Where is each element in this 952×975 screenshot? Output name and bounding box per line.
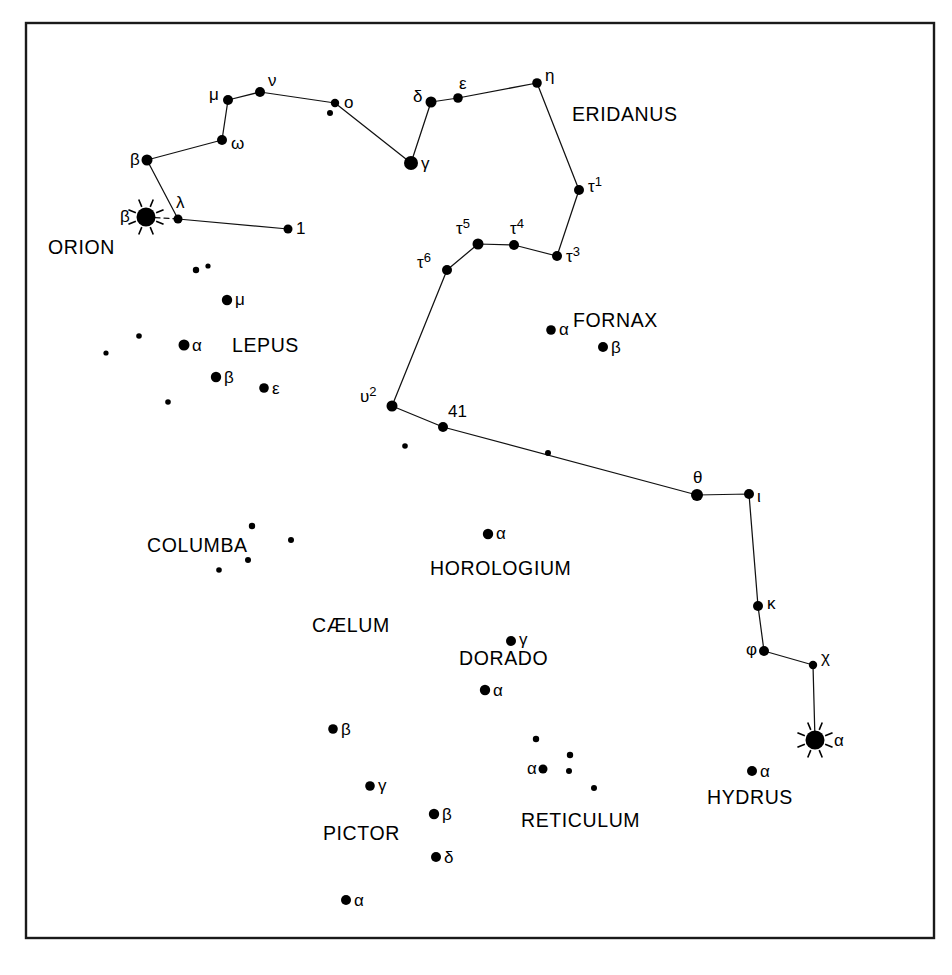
- constellation-name-horologium: HOROLOGIUM: [430, 557, 571, 579]
- star-fornax-β: [598, 342, 608, 352]
- star-fornax-α: [546, 325, 556, 335]
- star-lepus-unlabeled-31: [136, 333, 142, 339]
- star-label-υ2: υ2: [360, 384, 377, 406]
- star-chart-figure: βωμνoγδεητ1τ3τ4τ5τ6υ241θικφχα1λβμαβεαβαγ…: [0, 0, 952, 975]
- star-eridanus-ω: [217, 135, 227, 145]
- star-label-μ: μ: [209, 85, 219, 104]
- constellation-name-orion: ORION: [48, 236, 115, 258]
- star-columba-unlabeled-39: [249, 523, 255, 529]
- star-label-λ: λ: [176, 193, 185, 212]
- bright-star-ray: [819, 722, 822, 729]
- star-lepus-unlabeled-28: [205, 263, 210, 268]
- star-pictor-δ: [431, 852, 441, 862]
- star-eridanus-χ: [809, 661, 817, 669]
- bright-star-ray: [150, 227, 153, 234]
- star-eridanus-β: [142, 155, 153, 166]
- star-eridanus-τ5: [473, 239, 484, 250]
- chart-border-frame: [26, 23, 934, 938]
- star-label-α: α: [527, 759, 537, 778]
- star-label-γ: γ: [421, 154, 430, 173]
- star-columba-unlabeled-40: [288, 537, 294, 543]
- star-label-α: α: [559, 320, 569, 339]
- star-eridanus-τ6: [442, 265, 452, 275]
- star-reticulum-unlabeled-55: [591, 785, 597, 791]
- stars-layer: [103, 78, 832, 905]
- star-label-τ6: τ6: [417, 250, 431, 272]
- star-eridanus-ν: [255, 87, 265, 97]
- star-lepus-β: [211, 372, 221, 382]
- star-label-β: β: [120, 207, 130, 226]
- star-label-β: β: [224, 368, 234, 387]
- constellation-names-layer: ERIDANUSORIONLEPUSFORNAXCOLUMBAHOROLOGIU…: [48, 103, 793, 844]
- bright-star-ray: [825, 744, 832, 747]
- star-label-β: β: [442, 805, 452, 824]
- star-label-ε: ε: [272, 379, 280, 398]
- star-eridanus-1: [284, 225, 293, 234]
- star-label-τ3: τ3: [566, 244, 580, 266]
- constellation-name-lepus: LEPUS: [232, 334, 299, 356]
- constellation-name-columba: COLUMBA: [147, 534, 248, 556]
- star-eridanus-unlabeled-17: [545, 450, 551, 456]
- star-eridanus-α: [806, 731, 825, 750]
- sky-map-canvas: βωμνoγδεητ1τ3τ4τ5τ6υ241θικφχα1λβμαβεαβαγ…: [0, 0, 952, 975]
- bright-star-ray: [150, 199, 153, 206]
- constellation-line-eridanus: [147, 83, 815, 740]
- star-pictor-α: [341, 895, 351, 905]
- star-label-superscript: 2: [369, 384, 376, 399]
- star-eridanus-τ4: [509, 240, 519, 250]
- star-hydrus-α: [747, 766, 757, 776]
- star-orion-β: [137, 208, 156, 227]
- star-pictor-β: [328, 724, 338, 734]
- star-eridanus-τ1: [574, 185, 584, 195]
- bright-star-ray: [808, 750, 811, 757]
- star-label-χ: χ: [821, 648, 830, 667]
- star-eridanus-unlabeled-5: [327, 110, 333, 116]
- constellation-name-pictor: PICTOR: [323, 822, 400, 844]
- star-label-superscript: 6: [424, 250, 431, 265]
- star-label-o: o: [344, 93, 353, 112]
- star-label-η: η: [545, 66, 554, 85]
- star-label-δ: δ: [444, 848, 453, 867]
- star-pictor-γ: [365, 781, 375, 791]
- star-fornax-unlabeled-38: [402, 443, 408, 449]
- star-label-α: α: [192, 336, 202, 355]
- star-orion-λ: [174, 215, 183, 224]
- star-eridanus-φ: [759, 646, 769, 656]
- star-label-τ1: τ1: [588, 174, 602, 196]
- star-pictor-β: [429, 809, 439, 819]
- star-label-κ: κ: [767, 594, 776, 613]
- star-eridanus-41: [438, 422, 448, 432]
- star-label-ι: ι: [757, 487, 761, 506]
- bright-star-ray: [825, 733, 832, 736]
- star-label-1: 1: [296, 219, 305, 238]
- bright-star-ray: [139, 227, 142, 234]
- constellation-name-eridanus: ERIDANUS: [572, 103, 678, 125]
- star-eridanus-μ: [223, 95, 233, 105]
- star-lepus-unlabeled-27: [193, 267, 199, 273]
- star-label-β: β: [611, 338, 621, 357]
- star-label-ν: ν: [268, 71, 277, 90]
- star-label-superscript: 5: [463, 216, 470, 231]
- star-label-γ: γ: [378, 776, 387, 795]
- bright-star-ray: [797, 744, 804, 747]
- star-dorado-γ: [506, 636, 516, 646]
- star-eridanus-τ3: [552, 251, 562, 261]
- star-label-ε: ε: [459, 74, 467, 93]
- star-label-θ: θ: [693, 468, 702, 487]
- bright-star-ray: [156, 210, 163, 213]
- constellation-name-hydrus: HYDRUS: [707, 786, 793, 808]
- star-label-α: α: [496, 524, 506, 543]
- star-reticulum-unlabeled-51: [533, 736, 539, 742]
- constellation-name-dorado: DORADO: [459, 647, 548, 669]
- star-label-α: α: [354, 891, 364, 910]
- bright-star-ray: [819, 750, 822, 757]
- constellation-name-reticulum: RETICULUM: [521, 809, 640, 831]
- star-reticulum-unlabeled-52: [567, 752, 573, 758]
- star-label-41: 41: [448, 402, 467, 421]
- star-label-β: β: [130, 150, 140, 169]
- star-columba-unlabeled-41: [245, 557, 251, 563]
- star-label-τ4: τ4: [510, 216, 524, 238]
- star-label-superscript: 4: [517, 216, 524, 231]
- star-eridanus-θ: [691, 489, 703, 501]
- star-label-α: α: [834, 731, 844, 750]
